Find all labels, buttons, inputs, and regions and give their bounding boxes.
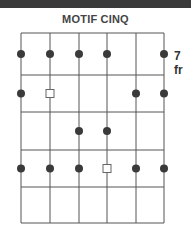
- fret-position-label: 7 fr: [174, 49, 191, 77]
- finger-dot: [103, 50, 111, 58]
- finger-dot: [160, 165, 168, 173]
- finger-dot: [75, 50, 83, 58]
- finger-dot: [75, 127, 83, 135]
- finger-dot: [17, 50, 25, 58]
- finger-dot: [160, 90, 168, 98]
- finger-dot: [46, 165, 54, 173]
- finger-dot: [103, 127, 111, 135]
- root-square-marker: [46, 90, 54, 98]
- root-square-marker: [103, 165, 111, 173]
- finger-dot: [17, 165, 25, 173]
- fretboard-diagram: [0, 0, 191, 246]
- finger-dot: [132, 90, 140, 98]
- finger-dot: [160, 50, 168, 58]
- finger-dot: [75, 165, 83, 173]
- finger-dot: [17, 90, 25, 98]
- finger-dot: [46, 50, 54, 58]
- finger-dot: [132, 165, 140, 173]
